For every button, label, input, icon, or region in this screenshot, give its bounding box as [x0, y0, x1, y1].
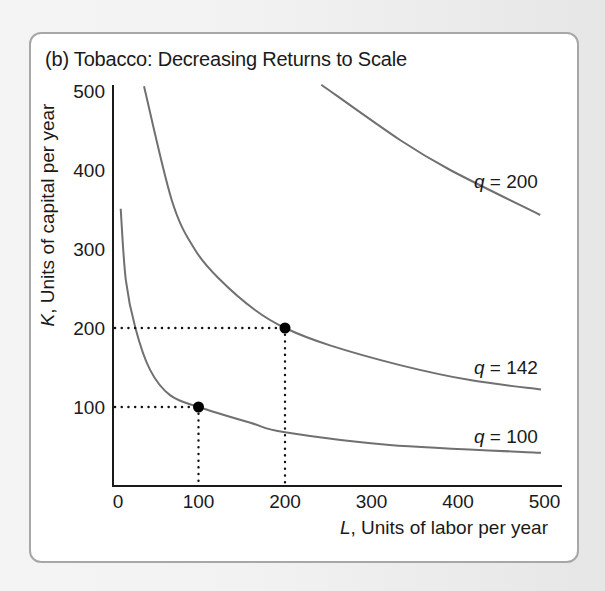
y-tick-label: 300	[73, 239, 105, 260]
x-tick-label: 100	[183, 491, 215, 512]
curve-label-q200: q = 200	[474, 171, 538, 192]
highlighted-points	[193, 323, 291, 413]
isoquant-200	[321, 85, 540, 215]
curve-label-q142: q = 142	[474, 357, 538, 378]
x-tick-label: 500	[529, 491, 561, 512]
isoquant-100	[121, 209, 541, 453]
y-tick-label: 100	[73, 397, 105, 418]
curve-label-q100: q = 100	[474, 426, 538, 447]
x-axis-ticks: 0100200300400500	[113, 491, 561, 512]
plot-area: 100200300400500 0100200300400500 q = 200…	[0, 0, 605, 591]
y-tick-label: 400	[73, 160, 105, 181]
y-axis-ticks: 100200300400500	[73, 81, 105, 418]
y-tick-label: 500	[73, 81, 105, 102]
x-tick-label: 200	[269, 491, 301, 512]
x-tick-label: 400	[442, 491, 474, 512]
data-point-marker	[280, 323, 291, 334]
x-tick-label: 0	[113, 491, 124, 512]
x-tick-label: 300	[356, 491, 388, 512]
data-point-marker	[193, 402, 204, 413]
isoquant-curves	[121, 85, 541, 453]
y-tick-label: 200	[73, 318, 105, 339]
isoquant-142	[144, 86, 541, 389]
